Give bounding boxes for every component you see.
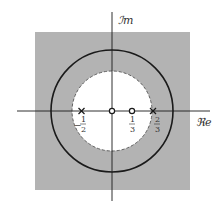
label-two-thirds: 2 3 xyxy=(154,115,160,134)
pole-zero-diagram: ℐm ℜe − 1 2 1 3 2 3 xyxy=(0,0,223,205)
svg-text:2: 2 xyxy=(81,125,86,134)
svg-text:3: 3 xyxy=(130,125,135,134)
imag-axis-label: ℐm xyxy=(118,14,133,27)
svg-text:1: 1 xyxy=(130,115,135,124)
zero-marker-origin xyxy=(109,108,114,113)
real-axis-label: ℜe xyxy=(196,116,212,129)
zero-marker-one-third xyxy=(129,108,134,113)
label-one-third: 1 3 xyxy=(129,115,135,134)
svg-text:1: 1 xyxy=(81,115,86,124)
svg-text:2: 2 xyxy=(155,115,160,124)
svg-text:3: 3 xyxy=(155,125,160,134)
